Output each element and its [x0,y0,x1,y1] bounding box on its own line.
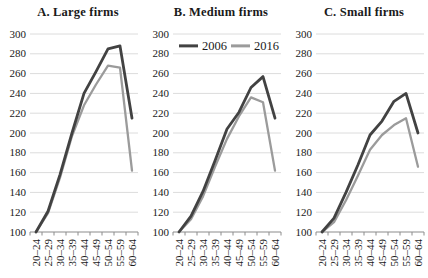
y-tick-label: 120 [153,206,170,218]
panel-large-firms: A. Large firms 1001201401601802002202402… [0,0,142,278]
y-tick-label: 260 [153,67,170,79]
y-tick-label: 280 [296,47,313,59]
x-tick-label: 40–44 [78,239,90,267]
y-tick-label: 100 [153,226,170,238]
y-tick-label: 240 [10,87,27,99]
x-tick-label: 55–59 [114,239,126,267]
y-tick-label: 220 [296,107,313,119]
x-tick-label: 20–24 [173,239,185,267]
three-panel-line-chart-figure: A. Large firms 1001201401601802002202402… [0,0,428,278]
x-tick-label: 45–49 [90,239,102,267]
x-tick-label: 55–59 [400,239,412,267]
x-tick-label: 40–44 [221,239,233,267]
x-tick-label: 50–54 [245,239,257,267]
y-tick-label: 280 [153,47,170,59]
y-tick-label: 180 [296,146,313,158]
panel-c-chart: 10012014016018020022024026028030020–2425… [286,20,428,278]
x-tick-label: 60–64 [126,239,138,267]
panel-medium-firms: B. Medium firms 100120140160180200220240… [143,0,285,278]
y-tick-label: 280 [10,47,27,59]
y-tick-label: 140 [10,186,27,198]
y-tick-label: 120 [296,206,313,218]
x-tick-label: 20–24 [30,239,42,267]
y-tick-label: 140 [296,186,313,198]
panel-a-chart: 10012014016018020022024026028030020–2425… [0,20,142,278]
y-tick-label: 180 [10,146,27,158]
x-tick-label: 30–34 [197,239,209,267]
legend-label-2006: 2006 [202,39,227,53]
y-tick-label: 120 [10,206,27,218]
y-tick-label: 220 [10,107,27,119]
panel-a-title: A. Large firms [0,4,142,20]
panel-c-title: C. Small firms [286,4,428,20]
y-tick-label: 300 [153,28,170,40]
x-tick-label: 40–44 [364,239,376,267]
x-tick-label: 60–64 [269,239,281,267]
x-tick-label: 20–24 [316,239,328,267]
y-tick-label: 240 [296,87,313,99]
y-tick-label: 140 [153,186,170,198]
x-tick-label: 25–29 [185,239,197,267]
y-tick-label: 220 [153,107,170,119]
x-tick-label: 45–49 [233,239,245,267]
y-tick-label: 300 [296,28,313,40]
x-tick-label: 60–64 [412,239,424,267]
x-tick-label: 45–49 [376,239,388,267]
y-tick-label: 160 [153,166,170,178]
x-tick-label: 50–54 [102,239,114,267]
x-tick-label: 25–29 [328,239,340,267]
panel-b-title: B. Medium firms [143,4,285,20]
panel-small-firms: C. Small firms 1001201401601802002202402… [286,0,428,278]
series-2006-line [322,93,418,232]
y-tick-label: 200 [153,127,170,139]
y-tick-label: 160 [296,166,313,178]
legend-label-2016: 2016 [254,39,279,53]
y-tick-label: 160 [10,166,27,178]
x-tick-label: 25–29 [42,239,54,267]
x-tick-label: 55–59 [257,239,269,267]
y-tick-label: 200 [10,127,27,139]
x-tick-label: 35–39 [352,239,364,267]
x-tick-label: 35–39 [209,239,221,267]
y-tick-label: 100 [296,226,313,238]
x-tick-label: 50–54 [388,239,400,267]
x-tick-label: 30–34 [340,239,352,267]
series-2006-line [179,77,275,232]
y-tick-label: 100 [10,226,27,238]
x-tick-label: 30–34 [54,239,66,267]
y-tick-label: 200 [296,127,313,139]
y-tick-label: 260 [10,67,27,79]
x-tick-label: 35–39 [66,239,78,267]
y-tick-label: 240 [153,87,170,99]
y-tick-label: 180 [153,146,170,158]
y-tick-label: 260 [296,67,313,79]
y-tick-label: 300 [10,28,27,40]
panel-b-chart: 10012014016018020022024026028030020–2425… [143,20,285,278]
